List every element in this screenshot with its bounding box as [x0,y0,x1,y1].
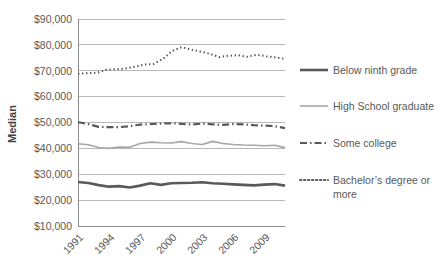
y-axis-tick-label: $60,000 [34,90,72,102]
x-axis-tick-label: 2006 [216,231,241,256]
y-axis-tick-label: $90,000 [34,13,72,25]
chart-container: Median $90,000$80,000$70,000$60,000$50,0… [0,0,443,271]
x-axis-tick-label: 1994 [91,231,116,256]
series-line-2 [78,122,285,128]
gridlines [78,19,285,226]
y-axis-tick-label: $40,000 [34,142,72,154]
y-axis-tick-labels: $90,000$80,000$70,000$60,000$50,000$40,0… [34,13,72,232]
series-line-0 [78,182,285,187]
x-axis-tick-label: 2000 [154,231,179,256]
y-axis-tick-label: $30,000 [34,168,72,180]
series-line-1 [78,141,285,148]
x-axis-tick-labels: 1991199419972000200320062009 [60,231,271,256]
legend-label-2: Some college [333,137,397,149]
x-axis-tick-label: 1991 [60,231,85,256]
x-axis-tick-label: 1997 [123,231,148,256]
x-axis-tick-label: 2009 [247,231,272,256]
y-axis-tick-label: $20,000 [34,194,72,206]
series-line-3 [78,47,285,74]
chart-legend: Below ninth gradeHigh School graduateSom… [300,64,434,200]
y-axis-title-group: Median [6,105,18,143]
y-axis-tick-label: $70,000 [34,65,72,77]
y-axis-title: Median [6,105,18,143]
legend-label-3: Bachelor’s degree ormore [333,174,431,200]
y-axis-tick-label: $10,000 [34,220,72,232]
median-income-by-education-line-chart: Median $90,000$80,000$70,000$60,000$50,0… [0,0,443,271]
y-axis-tick-label: $50,000 [34,116,72,128]
x-axis-tick-label: 2003 [185,231,210,256]
legend-label-1: High School graduate [333,100,434,112]
series-lines [78,47,285,187]
legend-label-0: Below ninth grade [333,64,417,76]
y-axis-tick-label: $80,000 [34,39,72,51]
